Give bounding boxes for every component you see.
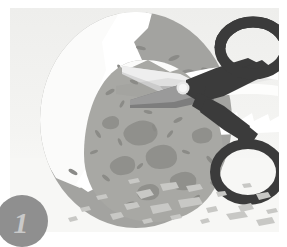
scissors-upper-handle-notch	[232, 70, 246, 77]
scissors-lower-handle-notch	[238, 136, 252, 143]
scissors-pivot-screw-inner	[179, 84, 187, 92]
step-number-badge: 1	[0, 195, 48, 247]
scene-graphic	[10, 8, 279, 232]
step-illustration-panel	[10, 8, 279, 232]
step-badge-number: 1	[14, 206, 29, 239]
scene-layers	[10, 8, 279, 232]
